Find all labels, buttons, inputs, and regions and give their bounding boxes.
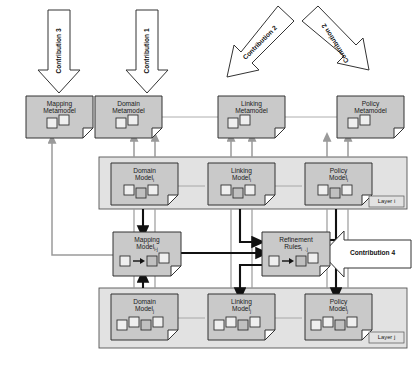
refinement-rules-shape[interactable] bbox=[262, 232, 330, 276]
contribution-2-right-arrow[interactable] bbox=[302, 6, 369, 70]
domain-model-i-shape[interactable] bbox=[111, 163, 178, 205]
contribution-1-arrow[interactable] bbox=[126, 10, 168, 93]
mapping-model-shape[interactable] bbox=[113, 232, 181, 276]
diagram-svg bbox=[0, 0, 417, 366]
policy-model-i-shape[interactable] bbox=[305, 163, 372, 205]
flow-linking-i-to-refinement bbox=[240, 209, 258, 242]
conformance-arrows-layer-i bbox=[134, 137, 348, 157]
domain-metamodel-shape[interactable] bbox=[95, 96, 162, 138]
contribution-3-arrow[interactable] bbox=[38, 10, 80, 93]
contribution-2-left-arrow[interactable] bbox=[227, 6, 294, 77]
layer-i-label-box bbox=[369, 196, 404, 207]
layer-j-label-box bbox=[369, 332, 404, 343]
policy-model-j-shape[interactable] bbox=[305, 294, 372, 340]
domain-model-j-shape[interactable] bbox=[111, 294, 178, 340]
diagram-canvas: Contribution 3 Contribution 1 Contributi… bbox=[0, 0, 417, 366]
linking-model-j-shape[interactable] bbox=[208, 294, 275, 340]
policy-metamodel-shape[interactable] bbox=[337, 96, 404, 138]
linking-metamodel-shape[interactable] bbox=[218, 96, 285, 138]
mapping-metamodel-shape[interactable] bbox=[26, 96, 93, 138]
linking-model-i-shape[interactable] bbox=[208, 163, 275, 205]
